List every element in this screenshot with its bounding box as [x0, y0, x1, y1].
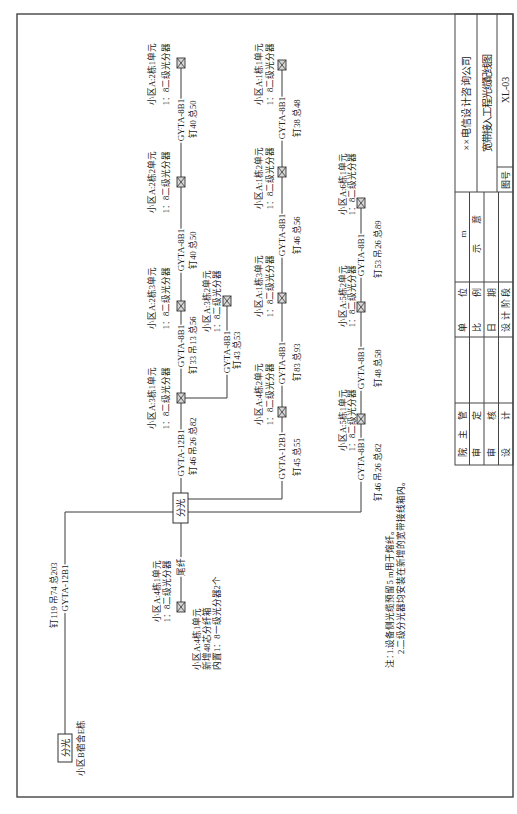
splitter-icon [278, 407, 286, 417]
role-label: 院主管 [457, 411, 468, 457]
splitter-ratio: 1：8二级光分器 [264, 43, 275, 106]
cable-type: GYTA-12B1 [277, 433, 287, 480]
cable-length: 钉40 总50 [187, 231, 198, 268]
cable-type: GYTA-8B1 [176, 99, 186, 141]
meta-label: 设计阶段 [500, 288, 511, 332]
meta-label: 比例 [471, 288, 482, 332]
splitter-ratio: 1：8二级光分器 [161, 560, 172, 623]
cable-length: 钉53 吊26 总89 [372, 220, 383, 277]
source-location: 小区B宿舍E栋 [75, 720, 86, 776]
cable-type: GYTA-8B1 [176, 229, 186, 271]
splitter-ratio: 1：8二级光分器 [264, 147, 275, 210]
splitter-ratio: 1：8二级光分器 [346, 153, 357, 216]
splitter-ratio: 1：8二级光分器 [160, 43, 171, 106]
cable-length: 钉48 总58 [372, 349, 383, 386]
splitter-icon [177, 177, 185, 187]
fiber-distribution-drawing: 分光 小区B宿舍E栋 GYTA-12B1 钉119 吊74 总203 分光 尾纤… [0, 0, 517, 814]
unit-value: m [458, 230, 468, 237]
splitter-icon [357, 198, 365, 208]
meta-label: 单位 [457, 288, 468, 332]
cable-type: GYTA-8B1 [176, 325, 186, 367]
cable-type: GYTA-8B1 [277, 97, 287, 139]
cable-length: 钉83 总93 [291, 343, 302, 380]
cable-type: GYTA-8B1 [222, 331, 232, 373]
splitter-ratio: 1：8二级光分器 [264, 255, 275, 318]
cable-type: GYTA-8B1 [356, 347, 366, 389]
splitter-icon [177, 301, 185, 311]
splitter-icon [177, 602, 185, 612]
meta-label: 日期 [487, 288, 497, 332]
splitter-ratio: 1：8二级光分器 [346, 389, 357, 452]
splitter-name: 小区A:2栋1单元 [146, 43, 157, 105]
source-splitter-label: 分光 [60, 739, 71, 757]
main-splitter-label: 分光 [175, 499, 186, 517]
cable-length: 钉46 吊26 总82 [372, 443, 383, 500]
role-label: 设计 [500, 411, 511, 457]
splitter-icon [177, 58, 185, 68]
box-note-line: 小区A:4栋1单元 [191, 608, 202, 670]
drawing-no-label: 图号 [501, 171, 511, 189]
splitter-icon [278, 293, 286, 303]
note-item: 1.设备侧光缆预留5 m用于熔纤。 [384, 526, 395, 654]
splitter-ratio: 1：8二级光分器 [160, 267, 171, 330]
pigtail-label: 尾纤 [175, 558, 186, 576]
splitter-name: 小区A:4栋1单元 [151, 560, 162, 622]
splitter-name: 小区A:2栋3单元 [146, 267, 157, 329]
role-label: 审定 [471, 411, 482, 457]
splitter-ratio: 1：8二级光分器 [346, 265, 357, 328]
cable-type: GYTA-8B1 [277, 342, 287, 384]
splitter-ratio: 1：8二级光分器 [211, 270, 222, 333]
cable-length: 钉38 总48 [291, 99, 302, 136]
splitter-icon [278, 167, 286, 177]
splitter-ratio: 1：8二级光分器 [264, 363, 275, 426]
cable-type: GYTA-12B1 [176, 430, 186, 477]
cable-length: 钉43 总53 [231, 331, 242, 368]
splitter-name: 小区A:3栋1单元 [146, 367, 157, 429]
source-cable-length: 钉119 吊74 总203 [48, 562, 59, 627]
cable-type: GYTA-8B1 [277, 214, 287, 256]
splitter-icon [357, 302, 365, 312]
splitter-icon [278, 60, 286, 70]
splitter-ratio: 1：8二级光分器 [160, 151, 171, 214]
cable-length: 钉45 总55 [291, 438, 302, 475]
splitter-name: 小区A:1栋2单元 [253, 147, 264, 209]
splitter-name: 小区A:3栋2单元 [201, 270, 212, 332]
cable-length: 钉46 总56 [291, 216, 302, 254]
role-label: 审核 [486, 411, 497, 457]
box-note-line: 新增48芯分纤箱 [201, 607, 212, 670]
splitter-name: 小区A:1栋3单元 [253, 255, 264, 317]
scale-value: 示意 [471, 215, 482, 253]
source-cable-type: GYTA-12B1 [60, 565, 70, 612]
box-note-line: 内置1：8一级光分器2个 [211, 576, 222, 670]
cable-length: 钉33 吊13 总56 [187, 316, 198, 374]
cable-length: 钉46 吊26 总82 [187, 417, 198, 474]
drawing-title: 宽带接入工程光缆配线图 [481, 54, 493, 152]
note-item: 2.二级分光器均安装在新增的宽带接线箱内。 [395, 477, 406, 654]
splitter-name: 小区A:4栋2单元 [253, 363, 264, 425]
cable-type: GYTA-8B1 [356, 234, 366, 276]
cable-length: 钉40 总50 [187, 100, 198, 137]
cable-type: GYTA-8B1 [356, 438, 366, 480]
splitter-name: 小区A:1栋1单元 [253, 43, 264, 105]
drawing-no: XL-03 [500, 77, 511, 104]
splitter-ratio: 1：8二级光分器 [160, 367, 171, 430]
splitter-name: 小区A:2栋2单元 [146, 151, 157, 213]
cable-line-row3 [188, 208, 361, 512]
company-name: ××电信设计咨询公司 [460, 56, 472, 151]
splitter-icon [357, 414, 365, 424]
splitter-icon [223, 296, 231, 306]
splitter-icon [177, 393, 185, 403]
